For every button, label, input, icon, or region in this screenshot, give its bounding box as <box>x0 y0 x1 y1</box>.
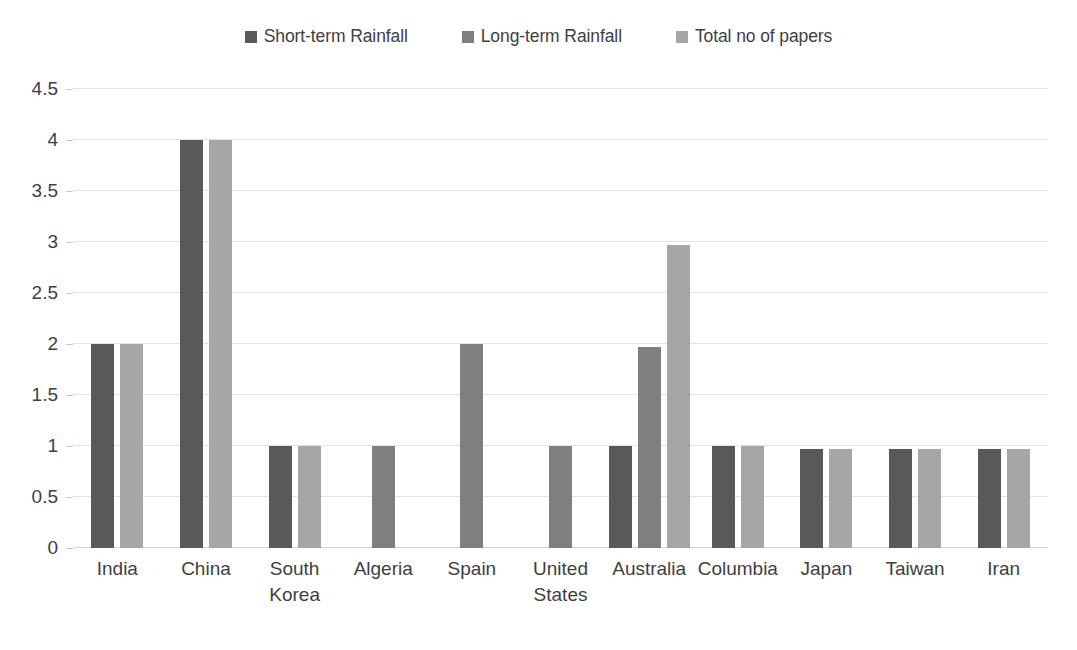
legend-item[interactable]: Long-term Rainfall <box>462 26 622 47</box>
legend-item[interactable]: Short-term Rainfall <box>245 26 408 47</box>
x-axis-tick-label: India <box>73 556 162 636</box>
bar[interactable] <box>918 449 941 548</box>
x-axis-tick-label: Spain <box>428 556 517 636</box>
y-axis-tick-label: 4 <box>0 129 58 151</box>
y-axis-tick-mark <box>66 89 73 90</box>
bar[interactable] <box>460 344 483 548</box>
bar[interactable] <box>549 446 572 548</box>
y-axis-tick-label: 3.5 <box>0 180 58 202</box>
bar[interactable] <box>372 446 395 548</box>
bar-group <box>162 89 251 548</box>
bar-chart: Short-term RainfallLong-term RainfallTot… <box>0 0 1077 650</box>
legend-swatch-icon <box>676 31 688 43</box>
bar[interactable] <box>712 446 735 548</box>
legend-swatch-icon <box>245 31 257 43</box>
bar[interactable] <box>800 449 823 548</box>
y-axis-tick-mark <box>66 191 73 192</box>
bar-slot <box>1007 89 1030 548</box>
x-axis-tick-label: Taiwan <box>871 556 960 636</box>
x-axis-tick-label: Australia <box>605 556 694 636</box>
bar[interactable] <box>180 140 203 548</box>
bar[interactable] <box>741 446 764 548</box>
legend-label: Short-term Rainfall <box>264 26 408 47</box>
bar[interactable] <box>978 449 1001 548</box>
y-axis-tick-label: 0.5 <box>0 486 58 508</box>
bar-group <box>516 89 605 548</box>
bar[interactable] <box>667 245 690 548</box>
bar-slot <box>609 89 632 548</box>
bar-group <box>428 89 517 548</box>
y-axis-tick-label: 3 <box>0 231 58 253</box>
bar[interactable] <box>638 347 661 548</box>
bar-slot <box>829 89 852 548</box>
bar[interactable] <box>829 449 852 548</box>
legend-label: Total no of papers <box>695 26 832 47</box>
bar-slot <box>120 89 143 548</box>
bar[interactable] <box>91 344 114 548</box>
x-axis-tick-label: Columbia <box>693 556 782 636</box>
bar[interactable] <box>269 446 292 548</box>
x-axis-tick-label: South Korea <box>250 556 339 636</box>
bar-slot <box>298 89 321 548</box>
bar-slot <box>800 89 823 548</box>
y-axis-tick-mark <box>66 293 73 294</box>
bar-group <box>871 89 960 548</box>
bar-group <box>339 89 428 548</box>
y-axis-tick-mark <box>66 548 73 549</box>
bar-slot <box>269 89 292 548</box>
x-axis-tick-label: United States <box>516 556 605 636</box>
bar-slot <box>372 89 395 548</box>
bar-groups <box>73 89 1048 548</box>
y-axis-tick-mark <box>66 242 73 243</box>
y-axis-tick-mark <box>66 497 73 498</box>
legend-label: Long-term Rainfall <box>481 26 622 47</box>
y-axis-tick-label: 4.5 <box>0 78 58 100</box>
bar-slot <box>889 89 912 548</box>
bar[interactable] <box>1007 449 1030 548</box>
x-axis-labels: IndiaChinaSouth KoreaAlgeriaSpainUnited … <box>73 556 1048 636</box>
bar[interactable] <box>609 446 632 548</box>
chart-legend: Short-term RainfallLong-term RainfallTot… <box>0 26 1077 47</box>
bar-slot <box>638 89 661 548</box>
y-axis-tick-label: 1 <box>0 435 58 457</box>
bar[interactable] <box>209 140 232 548</box>
y-axis-tick-label: 1.5 <box>0 384 58 406</box>
y-axis-tick-label: 2.5 <box>0 282 58 304</box>
y-axis-tick-mark <box>66 446 73 447</box>
bar[interactable] <box>120 344 143 548</box>
bar-slot <box>549 89 572 548</box>
bar-slot <box>918 89 941 548</box>
bar[interactable] <box>889 449 912 548</box>
bar-slot <box>667 89 690 548</box>
bar-slot <box>460 89 483 548</box>
bar-slot <box>91 89 114 548</box>
plot-area <box>73 89 1048 548</box>
bar-group <box>605 89 694 548</box>
y-axis-tick-mark <box>66 395 73 396</box>
y-axis-tick-label: 0 <box>0 537 58 559</box>
bar[interactable] <box>298 446 321 548</box>
bar-group <box>693 89 782 548</box>
legend-swatch-icon <box>462 31 474 43</box>
x-axis-tick-label: Algeria <box>339 556 428 636</box>
x-axis-tick-label: Iran <box>959 556 1048 636</box>
y-axis-tick-label: 2 <box>0 333 58 355</box>
bar-slot <box>978 89 1001 548</box>
legend-item[interactable]: Total no of papers <box>676 26 832 47</box>
y-axis-tick-mark <box>66 140 73 141</box>
bar-group <box>782 89 871 548</box>
bar-slot <box>712 89 735 548</box>
bar-group <box>959 89 1048 548</box>
bar-group <box>250 89 339 548</box>
bar-slot <box>209 89 232 548</box>
x-axis-tick-label: Japan <box>782 556 871 636</box>
x-axis-tick-label: China <box>162 556 251 636</box>
bar-group <box>73 89 162 548</box>
bar-slot <box>741 89 764 548</box>
y-axis-tick-mark <box>66 344 73 345</box>
bar-slot <box>180 89 203 548</box>
